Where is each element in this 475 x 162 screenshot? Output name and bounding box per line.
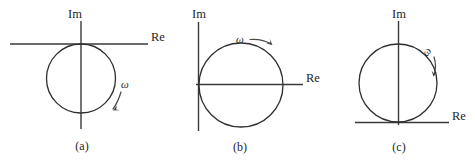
- imaginary-axis-label-a: Im: [68, 7, 82, 21]
- panel-b: Im Re ω (b): [192, 7, 320, 154]
- rotation-arrow-a: [113, 92, 121, 109]
- caption-a: (a): [75, 139, 88, 153]
- omega-label-a: ω: [121, 78, 129, 90]
- figure-root: Im Re ω (a) Im Re ω (b) Im Re: [0, 0, 475, 162]
- omega-label-c: ω: [419, 45, 433, 59]
- panel-a: Im Re ω (a): [10, 7, 165, 153]
- caption-c: (c): [392, 140, 405, 154]
- imaginary-axis-label-c: Im: [392, 7, 406, 21]
- panel-c: Im Re ω (c): [355, 7, 466, 154]
- complex-plane-diagrams: Im Re ω (a) Im Re ω (b) Im Re: [0, 0, 475, 162]
- real-axis-label-c: Re: [452, 109, 466, 123]
- rotation-arrow-c: [434, 57, 436, 75]
- caption-b: (b): [233, 140, 247, 154]
- imaginary-axis-label-b: Im: [192, 7, 206, 21]
- real-axis-label-a: Re: [151, 30, 165, 44]
- real-axis-label-b: Re: [306, 71, 320, 85]
- omega-label-b: ω: [236, 33, 244, 45]
